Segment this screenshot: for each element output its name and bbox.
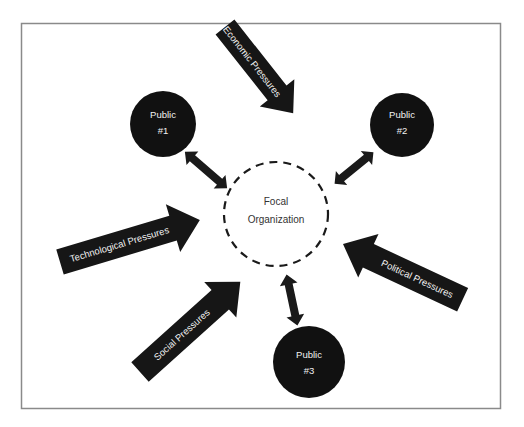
pressures-diagram: Focal Organization Public #1 Public #2 P… [0, 0, 524, 427]
focal-organization-node: Focal Organization [224, 162, 328, 266]
focal-label-line2: Organization [248, 214, 305, 225]
public-3-label-line1: Public [296, 349, 322, 360]
public-3-circle [273, 326, 345, 398]
public-3-label-line2: #3 [304, 365, 315, 376]
public-2-node: Public #2 [370, 93, 434, 157]
public-1-circle [130, 91, 196, 157]
public-2-label-line1: Public [389, 109, 415, 120]
public-3-node: Public #3 [273, 326, 345, 398]
public-1-label-line2: #1 [158, 125, 169, 136]
public-1-label-line1: Public [150, 109, 176, 120]
public-1-node: Public #1 [130, 91, 196, 157]
focal-label-line1: Focal [264, 196, 288, 207]
public-2-label-line2: #2 [397, 125, 408, 136]
